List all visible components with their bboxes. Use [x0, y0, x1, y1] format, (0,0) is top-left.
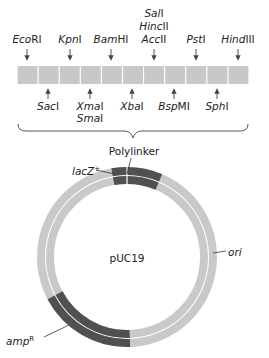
- restriction-site-bottom: XbaI: [119, 91, 143, 112]
- restriction-site-bottom: BspMI: [158, 91, 190, 112]
- polylinker-segment: [165, 66, 185, 84]
- site-label: XmaI: [76, 100, 104, 112]
- plasmid-name: pUC19: [109, 252, 144, 264]
- bottom-restriction-sites: SacIXmaISmaIXbaIBspMISphI: [37, 91, 229, 124]
- polylinker-brace: [18, 124, 248, 138]
- polylinker-segment: [123, 66, 143, 84]
- puc19-plasmid-map: EcoRIKpnIBamHISalIHincIIAccIIPstIHindIII…: [0, 0, 269, 358]
- restriction-site-bottom: SphI: [205, 91, 228, 112]
- site-label: SacI: [37, 100, 59, 112]
- site-label: BamHI: [94, 33, 129, 45]
- polylinker-segment: [229, 66, 249, 84]
- polylinker-segment: [207, 66, 227, 84]
- site-label: EcoRI: [12, 33, 41, 45]
- restriction-site-bottom: XmaISmaI: [76, 91, 104, 124]
- polylinker-segment: [18, 66, 38, 84]
- polylinker-segment-bar: [18, 66, 249, 84]
- site-label: HindIII: [221, 33, 254, 45]
- restriction-site-top: PstI: [186, 33, 205, 58]
- polylinker-segment: [81, 66, 101, 84]
- restriction-site-top: HindIII: [221, 33, 254, 58]
- restriction-site-top: EcoRI: [12, 33, 41, 58]
- ori-label: ori: [228, 246, 242, 258]
- site-label: XbaI: [119, 100, 143, 112]
- restriction-site-top: SalIHincIIAccII: [139, 7, 168, 58]
- site-label: BspMI: [158, 100, 190, 112]
- restriction-site-top: KpnI: [58, 33, 81, 58]
- site-label: AccII: [141, 33, 167, 45]
- polylinker-segment: [186, 66, 206, 84]
- top-restriction-sites: EcoRIKpnIBamHISalIHincIIAccIIPstIHindIII: [12, 7, 254, 58]
- ampr-leader-line: [44, 325, 69, 337]
- restriction-site-top: BamHI: [94, 33, 129, 58]
- polylinker-segment: [39, 66, 59, 84]
- site-label: SphI: [205, 100, 228, 112]
- ampr-label: ampR: [6, 335, 34, 347]
- polylinker-segment: [144, 66, 164, 84]
- ampr-region: [59, 293, 130, 334]
- lacz-region: [114, 180, 157, 186]
- site-label: SmaI: [77, 112, 103, 124]
- site-label: PstI: [186, 33, 205, 45]
- polylinker-segment: [102, 66, 122, 84]
- site-label: SalI: [144, 7, 163, 19]
- polylinker-segment: [60, 66, 80, 84]
- restriction-site-bottom: SacI: [37, 91, 59, 112]
- site-label: KpnI: [58, 33, 81, 45]
- polylinker-label: Polylinker: [109, 145, 160, 157]
- site-label: HincII: [139, 20, 168, 32]
